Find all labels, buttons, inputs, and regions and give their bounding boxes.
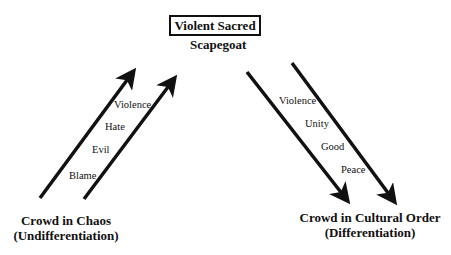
undifferentiation-label: (Undifferentiation) [13, 228, 118, 244]
left-word-violence: Violence [114, 99, 151, 110]
left-arrow-inner [84, 79, 174, 199]
left-word-blame: Blame [69, 170, 96, 181]
right-arrow-inner [247, 72, 347, 200]
right-arrows [247, 63, 394, 201]
left-word-hate: Hate [105, 121, 125, 132]
violent-sacred-box: Violent Sacred [169, 15, 261, 36]
right-arrow-outer [292, 63, 394, 201]
differentiation-label: (Differentiation) [325, 225, 416, 241]
scapegoat-label: Scapegoat [190, 37, 246, 53]
left-arrows [40, 72, 174, 199]
right-word-peace: Peace [341, 164, 365, 175]
crowd-in-chaos-label: Crowd in Chaos [21, 213, 111, 229]
right-word-violence: Violence [279, 95, 316, 106]
right-word-good: Good [321, 141, 344, 152]
left-word-evil: Evil [92, 144, 110, 155]
right-word-unity: Unity [305, 118, 329, 129]
crowd-in-cultural-order-label: Crowd in Cultural Order [300, 210, 441, 226]
